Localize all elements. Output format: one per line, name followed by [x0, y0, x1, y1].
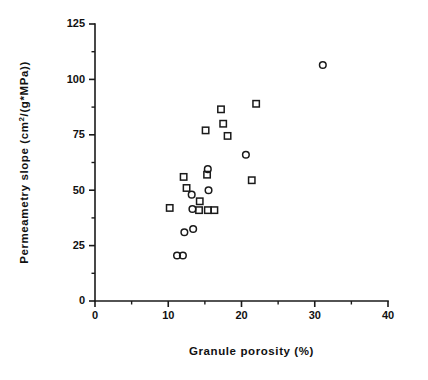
data-markers	[167, 62, 327, 259]
data-point-square	[202, 127, 208, 133]
data-point-square	[167, 205, 173, 211]
data-point-circle	[181, 229, 188, 236]
x-tick-label: 10	[162, 309, 174, 321]
x-axis-title: Granule porosity (%)	[189, 345, 314, 357]
data-point-square	[211, 207, 217, 213]
data-point-square	[253, 101, 259, 107]
data-point-square	[205, 207, 211, 213]
y-tick-label: 100	[67, 73, 85, 85]
y-tick-label: 125	[67, 17, 85, 29]
y-tick-label: 75	[73, 128, 85, 140]
y-tick-label: 25	[73, 239, 85, 251]
scatter-plot-figure: 0255075100125010203040 Granule porosity …	[0, 0, 428, 380]
axes	[95, 24, 388, 301]
data-point-circle	[243, 151, 250, 158]
data-point-circle	[190, 226, 197, 233]
data-point-square	[249, 177, 255, 183]
x-tick-label: 40	[382, 309, 394, 321]
x-tick-label: 20	[235, 309, 247, 321]
data-point-square	[196, 207, 202, 213]
axis-ticks	[89, 24, 388, 307]
data-point-square	[180, 174, 186, 180]
data-point-circle	[188, 191, 195, 198]
data-point-circle	[189, 206, 196, 213]
data-point-square	[224, 133, 230, 139]
data-point-square	[220, 121, 226, 127]
plot-canvas: 0255075100125010203040 Granule porosity …	[0, 0, 428, 380]
data-point-square	[197, 198, 203, 204]
y-tick-label: 50	[73, 184, 85, 196]
data-point-square	[183, 185, 189, 191]
y-axis-title: Permeametry slope (cm2/(g*MPa))	[17, 61, 30, 264]
x-tick-label: 0	[92, 309, 98, 321]
data-point-circle	[320, 62, 327, 69]
axis-tick-labels: 0255075100125010203040	[67, 17, 394, 321]
data-point-circle	[205, 187, 212, 194]
y-tick-label: 0	[79, 294, 85, 306]
data-point-square	[218, 106, 224, 112]
x-tick-label: 30	[309, 309, 321, 321]
